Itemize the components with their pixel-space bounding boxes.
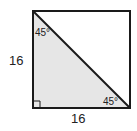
side-left-label: 16: [9, 53, 23, 68]
angle-top-label: 45°: [35, 27, 50, 38]
angle-bottom-right-label: 45°: [103, 96, 118, 107]
side-bottom-label: 16: [71, 111, 85, 126]
